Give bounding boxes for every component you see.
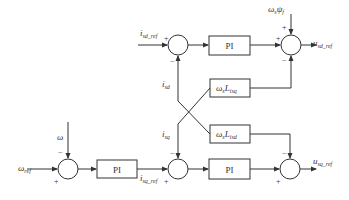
usd-ref-label: usd_ref [313, 38, 334, 49]
sum-junction-usd [281, 35, 301, 55]
sign-plus: + [164, 177, 169, 186]
sign-minus: − [58, 148, 63, 157]
sign-plus: + [282, 23, 287, 32]
sign-minus: − [282, 56, 287, 65]
control-block-diagram: PI PI PI isd_ref isd isq isq_ref usd_ref… [0, 0, 349, 200]
isd-ref-label: isd_ref [140, 28, 159, 39]
pi-d-label: PI [225, 41, 233, 51]
sum-junction-usq [280, 159, 300, 179]
isq-ref-label: isq_ref [140, 173, 159, 184]
isd-label: isd [162, 79, 171, 90]
sign-plus: + [276, 34, 281, 43]
omega-label: ω [57, 132, 63, 142]
sign-plus: + [276, 177, 281, 186]
sum-junction-speed [58, 159, 78, 179]
sign-minus: − [170, 149, 175, 158]
sign-minus: − [170, 57, 175, 66]
sign-minus: − [282, 149, 287, 158]
sign-plus: + [54, 177, 59, 186]
isd-feedback-line [178, 56, 210, 134]
pi-q-label: PI [225, 165, 233, 175]
sign-plus: + [164, 34, 169, 43]
sum-junction-q [168, 159, 188, 179]
isq-label: isq [162, 129, 170, 140]
isq-feedback-line [178, 88, 210, 158]
sum-junction-d [168, 35, 188, 55]
omega-ref-label: ωref [18, 163, 32, 174]
flux-label: ωsψf [268, 4, 285, 15]
pi-speed-label: PI [113, 165, 121, 175]
usq-ref-label: usq_ref [313, 156, 334, 167]
